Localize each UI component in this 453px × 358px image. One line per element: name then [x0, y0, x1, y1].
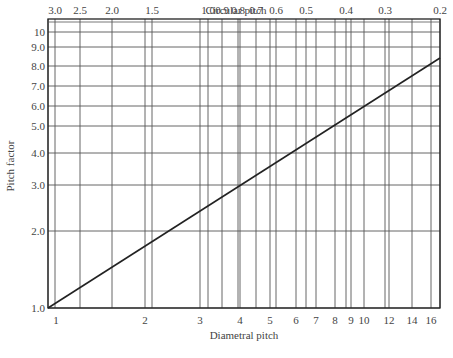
- y-tick-label: 7.0: [31, 80, 45, 92]
- x-tick-label: 12: [384, 314, 395, 326]
- pitch-factor-line: [48, 58, 440, 308]
- x-tick-label: 5: [267, 314, 273, 326]
- y-tick-label: 9.0: [31, 41, 45, 53]
- x2-tick-label: 0.3: [378, 4, 392, 16]
- pitch-factor-chart: 1.02.03.04.05.06.07.08.09.010 1234567891…: [0, 0, 453, 358]
- grid-lines: [48, 19, 440, 308]
- x-tick-label: 4: [237, 314, 243, 326]
- x-tick-label: 10: [359, 314, 371, 326]
- bottom-axis-title: Diametral pitch: [210, 329, 279, 341]
- x-tick-label: 6: [293, 314, 299, 326]
- y-tick-label: 5.0: [31, 120, 45, 132]
- left-axis-title: Pitch factor: [4, 140, 16, 191]
- y-tick-label: 1.0: [31, 302, 45, 314]
- x2-tick-label: 1.5: [145, 4, 159, 16]
- y-tick-label: 4.0: [31, 147, 45, 159]
- x2-tick-label: 2.0: [105, 4, 119, 16]
- x-tick-label: 9: [348, 314, 354, 326]
- y-tick-label: 10: [34, 26, 46, 38]
- x-tick-label: 14: [407, 314, 419, 326]
- x2-tick-label: 0.6: [269, 4, 283, 16]
- x2-tick-label: 0.4: [339, 4, 353, 16]
- y-tick-labels: 1.02.03.04.05.06.07.08.09.010: [31, 26, 45, 314]
- x-tick-label: 7: [313, 314, 319, 326]
- y-tick-label: 6.0: [31, 100, 45, 112]
- plot-frame: [48, 19, 440, 308]
- x2-tick-label: 0.2: [433, 4, 447, 16]
- x2-tick-label: 3.0: [48, 4, 62, 16]
- x-tick-label: 16: [426, 314, 438, 326]
- x-tick-labels: 12345678910121416: [53, 314, 437, 326]
- x-tick-label: 8: [332, 314, 338, 326]
- data-line: [48, 58, 440, 308]
- y-tick-label: 8.0: [31, 60, 45, 72]
- x-tick-label: 3: [197, 314, 203, 326]
- y-tick-label: 2.0: [31, 225, 45, 237]
- x-tick-label: 2: [142, 314, 148, 326]
- x2-tick-label: 0.5: [299, 4, 313, 16]
- y-tick-label: 3.0: [31, 179, 45, 191]
- x2-tick-label: 2.5: [73, 4, 87, 16]
- top-axis-title: Circular pitch: [206, 4, 267, 16]
- x-tick-label: 1: [53, 314, 59, 326]
